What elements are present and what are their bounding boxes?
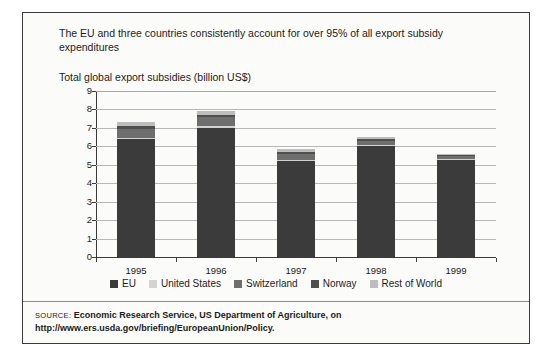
bar-segment-eu (437, 159, 475, 257)
bar-segment-rest-of-world (357, 137, 395, 139)
y-axis-tick-label: 6 (62, 140, 92, 151)
legend-label: Norway (323, 278, 357, 289)
x-axis-tick-mark (416, 258, 417, 262)
y-axis-tick-mark (92, 146, 96, 147)
x-axis-tick-label: 1998 (346, 265, 406, 276)
source-note: SOURCE: Economic Research Service, US De… (35, 309, 515, 334)
legend-label: Rest of World (382, 278, 442, 289)
source-text: Economic Research Service, US Department… (35, 310, 342, 333)
chart-legend: EUUnited StatesSwitzerlandNorwayRest of … (23, 278, 529, 289)
y-axis-tick-mark (92, 91, 96, 92)
legend-label: United States (161, 278, 221, 289)
y-axis-tick-label: 4 (62, 177, 92, 188)
bar-segment-norway (357, 139, 395, 140)
bar-segment-united-states (357, 145, 395, 146)
y-axis-tick-mark (92, 165, 96, 166)
y-axis-tick-mark (92, 109, 96, 110)
gridline (96, 146, 496, 147)
bar-segment-rest-of-world (117, 122, 155, 126)
y-axis-tick-label: 3 (62, 196, 92, 207)
legend-item-eu: EU (110, 278, 136, 289)
bar-segment-norway (197, 115, 235, 118)
figure-headline: The EU and three countries consistently … (59, 27, 499, 54)
legend-item-switzerland: Switzerland (234, 278, 298, 289)
bar-segment-eu (357, 146, 395, 257)
y-axis-tick-mark (92, 239, 96, 240)
x-axis-tick-label: 1999 (426, 265, 486, 276)
y-axis-tick-label: 0 (62, 251, 92, 262)
x-axis-tick-mark (336, 258, 337, 262)
y-axis-tick-mark (92, 128, 96, 129)
legend-swatch (311, 280, 319, 288)
bar-1996 (197, 111, 235, 257)
legend-item-united-states: United States (149, 278, 221, 289)
bar-segment-united-states (197, 126, 235, 128)
bar-1999 (437, 154, 475, 257)
chart-subtitle: Total global export subsidies (billion U… (59, 71, 499, 83)
bar-segment-switzerland (437, 156, 475, 158)
legend-label: Switzerland (246, 278, 298, 289)
x-axis-tick-label: 1997 (266, 265, 326, 276)
bar-1997 (277, 149, 315, 257)
bar-segment-switzerland (277, 154, 315, 160)
bar-segment-norway (437, 155, 475, 156)
gridline (96, 128, 496, 129)
x-axis-tick-label: 1995 (106, 265, 166, 276)
bar-segment-eu (277, 161, 315, 257)
chart-plot-area: 0123456789 19951996199719981999 (96, 91, 496, 257)
bar-segment-rest-of-world (437, 154, 475, 156)
legend-swatch (149, 280, 157, 288)
x-axis-tick-mark (256, 258, 257, 262)
x-axis-tick-mark (496, 258, 497, 262)
bar-segment-switzerland (357, 141, 395, 146)
y-axis-tick-mark (92, 202, 96, 203)
bar-segment-rest-of-world (277, 149, 315, 151)
source-divider (23, 301, 529, 302)
y-axis-tick-label: 5 (62, 159, 92, 170)
y-axis-tick-mark (92, 183, 96, 184)
figure-panel: The EU and three countries consistently … (22, 12, 530, 344)
bar-segment-united-states (117, 138, 155, 139)
x-axis-line (96, 257, 496, 258)
y-axis-tick-mark (92, 220, 96, 221)
bar-segment-eu (117, 139, 155, 257)
x-axis-tick-label: 1996 (186, 265, 246, 276)
bar-segment-united-states (277, 160, 315, 161)
gridline (96, 91, 496, 92)
x-axis-tick-mark (96, 258, 97, 262)
source-label: SOURCE: (35, 311, 71, 320)
bar-segment-rest-of-world (197, 111, 235, 114)
y-axis-tick-label: 1 (62, 233, 92, 244)
y-axis-line (96, 91, 97, 257)
bar-1995 (117, 122, 155, 257)
bar-segment-switzerland (197, 117, 235, 125)
legend-label: EU (122, 278, 136, 289)
legend-item-rest-of-world: Rest of World (370, 278, 442, 289)
bar-segment-norway (277, 152, 315, 154)
bar-segment-norway (117, 126, 155, 129)
x-axis-tick-mark (176, 258, 177, 262)
gridline (96, 109, 496, 110)
y-axis-tick-label: 9 (62, 85, 92, 96)
bar-segment-eu (197, 128, 235, 257)
legend-swatch (370, 280, 378, 288)
bar-1998 (357, 137, 395, 257)
legend-swatch (234, 280, 242, 288)
bar-segment-switzerland (117, 129, 155, 138)
y-axis-tick-label: 8 (62, 103, 92, 114)
legend-swatch (110, 280, 118, 288)
y-axis-tick-label: 7 (62, 122, 92, 133)
bar-segment-united-states (437, 159, 475, 160)
legend-item-norway: Norway (311, 278, 357, 289)
y-axis-tick-label: 2 (62, 214, 92, 225)
